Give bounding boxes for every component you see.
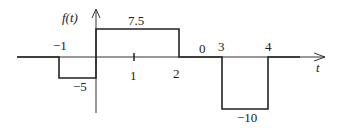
y-axis-label: f(t) [62,10,78,25]
label-value-7-5: 7.5 [128,13,144,28]
label-t4: 4 [265,39,272,54]
label-t2: 2 [173,66,180,81]
label-value-minus10: −10 [237,110,257,125]
label-value-0: 0 [199,41,206,56]
label-value-minus5: −5 [73,79,87,94]
label-t3: 3 [218,39,225,54]
piecewise-signal-diagram: f(t) t −1 1 2 3 4 7.5 −5 −10 0 [0,0,342,128]
label-t1: 1 [130,68,137,83]
x-axis-label: t [316,60,320,75]
label-t-minus1: −1 [53,38,67,53]
